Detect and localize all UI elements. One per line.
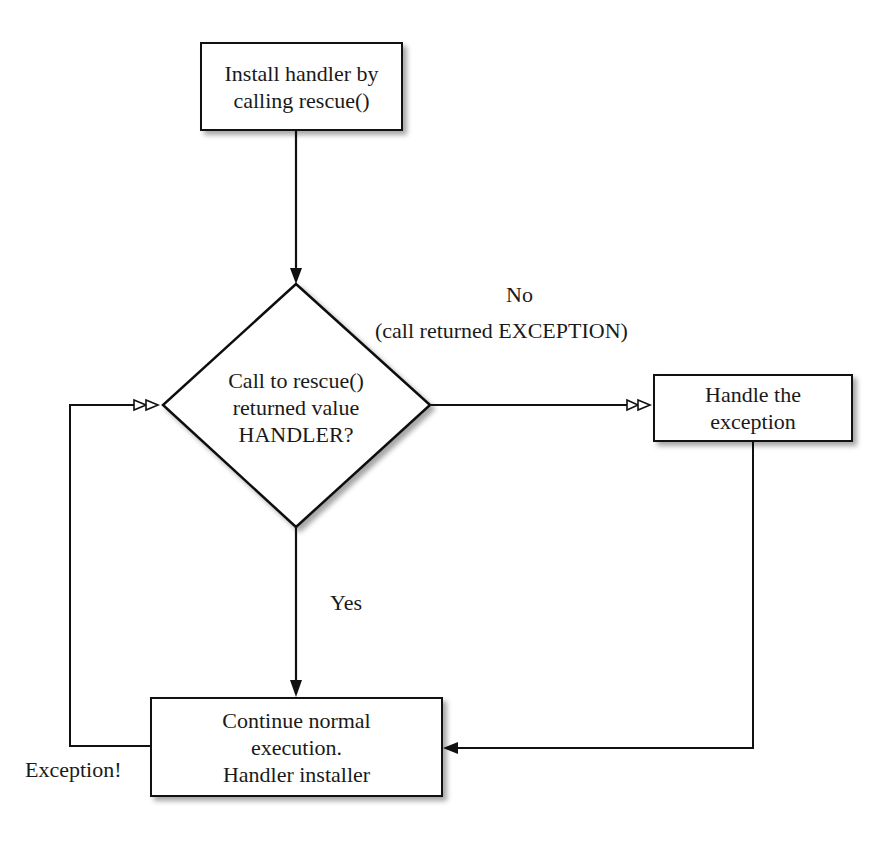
node-decision-text: Call to rescue() returned value HANDLER? — [196, 367, 396, 448]
node-text: HANDLER? — [196, 421, 396, 448]
edge-label-no-detail: (call returned EXCEPTION) — [375, 318, 628, 344]
node-text: returned value — [196, 394, 396, 421]
edge-label-yes: Yes — [330, 590, 362, 616]
edge-label-exception: Exception! — [25, 757, 122, 783]
node-handle-exception: Handle the exception — [653, 374, 853, 442]
node-text: Continue normal — [222, 707, 370, 734]
arrowhead-filled-icon — [290, 680, 302, 697]
edge-label-no: No — [506, 282, 533, 308]
node-text: calling rescue() — [233, 87, 369, 114]
node-install-handler: Install handler by calling rescue() — [200, 42, 403, 131]
node-text: Call to rescue() — [196, 367, 396, 394]
connector-exception-loop — [70, 405, 150, 746]
node-text: Install handler by — [225, 60, 379, 87]
double-open-arrowhead-icon — [146, 400, 158, 410]
connector-handle-to-continue — [457, 441, 753, 748]
double-open-arrowhead-icon — [134, 400, 146, 410]
double-open-arrowhead-icon — [638, 400, 650, 410]
arrowhead-filled-icon — [290, 268, 302, 284]
node-continue-execution: Continue normal execution. Handler insta… — [150, 697, 443, 797]
node-text: exception — [710, 408, 796, 435]
node-text: execution. — [251, 734, 342, 761]
node-text: Handle the — [705, 381, 801, 408]
double-open-arrowhead-icon — [627, 400, 638, 410]
node-text: Handler installer — [223, 761, 370, 788]
arrowhead-filled-icon — [443, 742, 458, 754]
